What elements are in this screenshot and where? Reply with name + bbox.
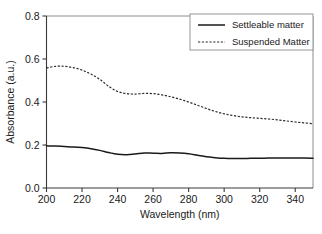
x-tick-label-220: 220 — [73, 193, 91, 205]
chart-canvas: 0.00.20.40.60.8200220240260280300320340W… — [0, 0, 322, 234]
x-tick-label-300: 300 — [215, 193, 233, 205]
legend-label-suspended-matter: Suspended Matter — [232, 36, 310, 47]
x-tick-label-280: 280 — [180, 193, 198, 205]
x-tick-label-200: 200 — [38, 193, 56, 205]
y-tick-label-0.8: 0.8 — [25, 10, 40, 22]
x-tick-label-340: 340 — [286, 193, 304, 205]
y-tick-label-0.0: 0.0 — [25, 182, 40, 194]
x-axis-title: Wavelength (nm) — [140, 208, 220, 220]
y-tick-label-0.6: 0.6 — [25, 53, 40, 65]
x-tick-label-260: 260 — [144, 193, 162, 205]
y-tick-label-0.4: 0.4 — [25, 96, 40, 108]
y-tick-label-0.2: 0.2 — [25, 139, 40, 151]
y-axis-title: Absorbance (a.u.) — [4, 60, 16, 143]
x-tick-label-240: 240 — [109, 193, 127, 205]
x-tick-label-320: 320 — [251, 193, 269, 205]
legend-label-settleable-matter: Settleable matter — [232, 19, 304, 30]
absorbance-spectrum-chart: 0.00.20.40.60.8200220240260280300320340W… — [0, 0, 322, 234]
